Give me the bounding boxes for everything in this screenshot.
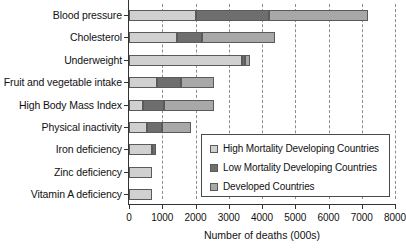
y-axis-tick: [124, 37, 129, 38]
x-axis-tick-label: 1000: [151, 212, 173, 223]
legend-swatch-icon: [210, 164, 218, 172]
x-axis-tick: [229, 205, 230, 209]
legend-label: High Mortality Developing Countries: [223, 143, 379, 154]
x-axis-tick-label: 6000: [317, 212, 339, 223]
y-axis-tick: [124, 149, 129, 150]
category-label: Cholesterol: [70, 32, 122, 43]
legend-item: High Mortality Developing Countries: [210, 143, 379, 154]
category-axis-labels: Blood pressureCholesterolUnderweightFrui…: [0, 0, 126, 205]
bar-segment: [245, 55, 250, 66]
x-axis-tick: [395, 205, 396, 209]
x-axis-tick: [129, 205, 130, 209]
bar-segment: [129, 167, 152, 178]
x-axis-tick: [162, 205, 163, 209]
bar-row: [129, 10, 395, 21]
bar-segment: [196, 10, 269, 21]
x-axis-tick-label: 2000: [184, 212, 206, 223]
category-label: Fruit and vegetable intake: [4, 77, 122, 88]
bar-segment: [147, 122, 162, 133]
y-axis-tick: [124, 194, 129, 195]
bar-segment: [129, 100, 143, 111]
x-axis-title: Number of deaths (000s): [129, 229, 395, 241]
bar-segment: [269, 10, 369, 21]
category-label: Iron deficiency: [56, 144, 122, 155]
x-axis-tick: [295, 205, 296, 209]
bar-segment: [164, 100, 214, 111]
legend-label: Developed Countries: [223, 181, 315, 192]
legend-item: Developed Countries: [210, 181, 315, 192]
bar-segment: [129, 189, 152, 200]
x-axis-tick-label: 0: [126, 212, 132, 223]
bar-row: [129, 77, 395, 88]
x-axis-tick: [196, 205, 197, 209]
bar-segment: [177, 32, 202, 43]
x-axis-tick-label: 7000: [351, 212, 373, 223]
y-axis-tick: [124, 127, 129, 128]
x-axis-tick-label: 8000: [384, 212, 406, 223]
category-label: Blood pressure: [53, 10, 122, 21]
bar-segment: [152, 144, 155, 155]
y-axis-tick: [124, 60, 129, 61]
bar-row: [129, 100, 395, 111]
x-axis-tick: [262, 205, 263, 209]
category-label: High Body Mass Index: [19, 100, 122, 111]
bar-segment: [129, 77, 157, 88]
legend-swatch-icon: [210, 183, 218, 191]
y-axis-tick: [124, 105, 129, 106]
bar-segment: [129, 32, 177, 43]
bar-row: [129, 55, 395, 66]
x-axis-tick-label: 4000: [251, 212, 273, 223]
bar-segment: [202, 32, 275, 43]
bar-row: [129, 122, 395, 133]
x-axis-tick-label: 5000: [284, 212, 306, 223]
category-label: Vitamin A deficiency: [31, 189, 122, 200]
bar-segment: [129, 10, 196, 21]
bar-row: [129, 32, 395, 43]
category-label: Zinc deficiency: [54, 167, 122, 178]
bar-segment: [129, 122, 147, 133]
x-axis-tick: [362, 205, 363, 209]
category-label: Physical inactivity: [42, 122, 122, 133]
y-axis-tick: [124, 172, 129, 173]
bar-segment: [181, 77, 214, 88]
x-axis-tick-label: 3000: [218, 212, 240, 223]
bar-segment: [129, 144, 152, 155]
gridline: [395, 4, 396, 199]
bar-segment: [162, 122, 190, 133]
bar-segment: [143, 100, 164, 111]
chart-legend: High Mortality Developing CountriesLow M…: [201, 134, 390, 197]
legend-label: Low Mortality Developing Countries: [223, 162, 377, 173]
bar-segment: [129, 55, 242, 66]
x-axis-tick: [329, 205, 330, 209]
y-axis-tick: [124, 15, 129, 16]
legend-item: Low Mortality Developing Countries: [210, 162, 377, 173]
bar-segment: [157, 77, 180, 88]
category-label: Underweight: [64, 55, 122, 66]
legend-swatch-icon: [210, 145, 218, 153]
y-axis-tick: [124, 82, 129, 83]
